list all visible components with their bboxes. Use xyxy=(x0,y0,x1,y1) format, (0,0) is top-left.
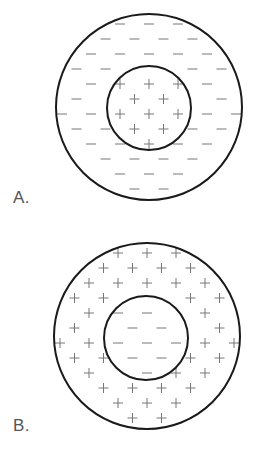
inner-circle xyxy=(107,66,191,150)
charge-symbols xyxy=(57,24,241,189)
concentric-circles-b xyxy=(0,226,268,456)
diagram-a: A. xyxy=(0,0,268,228)
label-a: A. xyxy=(13,188,30,208)
concentric-circles-a xyxy=(0,0,268,228)
charge-symbols xyxy=(55,248,239,423)
outer-circle xyxy=(56,14,242,200)
label-b: B. xyxy=(13,416,30,436)
inner-circle xyxy=(104,296,188,380)
diagram-b: B. xyxy=(0,226,268,454)
